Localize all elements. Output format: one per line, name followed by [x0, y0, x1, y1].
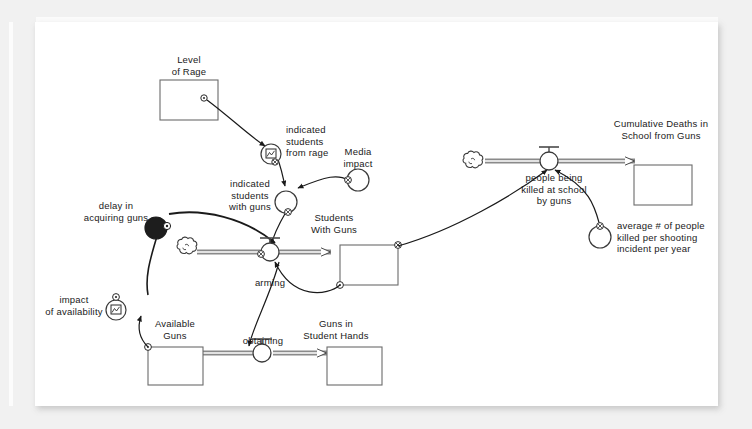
label-students-with-guns: Students With Guns [303, 212, 365, 235]
stock-level-of-rage[interactable] [160, 80, 218, 120]
stock-guns-in-student-hands[interactable] [327, 347, 382, 385]
converter-media-impact[interactable] [345, 169, 369, 191]
stock-students-with-guns[interactable] [337, 242, 402, 289]
label-arming: arming [244, 277, 296, 289]
link-impact-of-availability-to-delay [147, 233, 158, 295]
label-people-being-killed: people being killed at school by guns [515, 172, 593, 207]
label-indicated-students-with-guns: indicated students with guns [221, 178, 279, 213]
cloud-arming-source [177, 237, 197, 254]
stock-cumulative-deaths[interactable] [634, 165, 692, 205]
label-level-of-rage: Level of Rage [160, 54, 218, 77]
flow-valve-people-being-killed[interactable] [539, 147, 559, 170]
converter-indicated-students-from-rage[interactable] [261, 144, 281, 165]
screenshot-root: Level of Rage indicated students from ra… [0, 0, 752, 429]
label-obtaining: obtaining [235, 335, 291, 347]
label-delay-in-acquiring-guns: delay in acquiring guns [77, 200, 155, 223]
label-impact-of-availability: impact of availability [37, 294, 111, 317]
label-cumulative-deaths: Cumulative Deaths in School from Guns [597, 118, 725, 141]
label-guns-in-student-hands: Guns in Student Hands [297, 318, 375, 341]
label-media-impact: Media impact [330, 146, 386, 169]
label-average-killed-per-incident: average # of people killed per shooting … [617, 220, 723, 255]
label-indicated-students-from-rage: indicated students from rage [286, 124, 328, 159]
left-edge-strip [9, 22, 13, 406]
label-available-guns: Available Guns [147, 318, 203, 341]
cloud-killing-source [463, 151, 483, 168]
flow-valve-arming[interactable] [258, 238, 280, 261]
link-media-impact-to-indicated-with-guns [298, 177, 348, 188]
converter-average-killed-per-incident[interactable] [589, 223, 611, 248]
model-canvas-panel[interactable]: Level of Rage indicated students from ra… [35, 22, 718, 406]
link-rage-to-indicated-from-rage [207, 100, 265, 146]
link-arming-to-obtaining [249, 262, 279, 346]
stock-available-guns[interactable] [145, 344, 203, 385]
